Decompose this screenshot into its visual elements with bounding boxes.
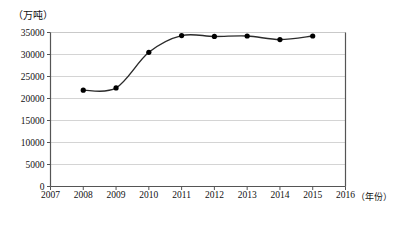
y-axis-tick-label: 15000 xyxy=(21,116,45,126)
data-point-marker xyxy=(146,50,151,55)
x-axis-tick-label: 2016 xyxy=(336,190,355,200)
data-point-marker xyxy=(113,85,118,90)
y-axis-tick-label: 30000 xyxy=(21,50,45,60)
y-axis-tick-label: 5000 xyxy=(26,160,45,170)
series-line-path xyxy=(83,35,312,92)
y-axis-tick-label: 35000 xyxy=(21,28,45,38)
data-point-marker xyxy=(245,33,250,38)
x-axis-tick-label: 2014 xyxy=(270,190,289,200)
data-point-marker xyxy=(179,33,184,38)
data-point-marker xyxy=(81,88,86,93)
x-axis-tick-label: 2007 xyxy=(41,190,60,200)
x-axis-tick-label: 2008 xyxy=(74,190,93,200)
x-axis-tick-label: 2009 xyxy=(107,190,126,200)
x-axis-tick-label: 2010 xyxy=(139,190,158,200)
y-axis-tick-label: 10000 xyxy=(21,138,45,148)
data-point-markers-group xyxy=(81,33,316,93)
x-axis-tick-label: 2011 xyxy=(172,190,191,200)
x-axis-tick-label: 2015 xyxy=(303,190,322,200)
y-axis-tick-label: 25000 xyxy=(21,72,45,82)
gridlines-group xyxy=(51,33,346,165)
x-axis-tick-label: 2012 xyxy=(205,190,224,200)
x-axis-unit-label: （年份） xyxy=(356,190,392,203)
chart-container: （万吨） 05000100001500020000250003000035000… xyxy=(0,0,406,226)
axes-group xyxy=(51,33,346,187)
x-axis-tick-label: 2013 xyxy=(238,190,257,200)
y-axis-tick-label: 20000 xyxy=(21,94,45,104)
data-point-marker xyxy=(277,37,282,42)
data-point-marker xyxy=(212,34,217,39)
data-point-marker xyxy=(310,33,315,38)
